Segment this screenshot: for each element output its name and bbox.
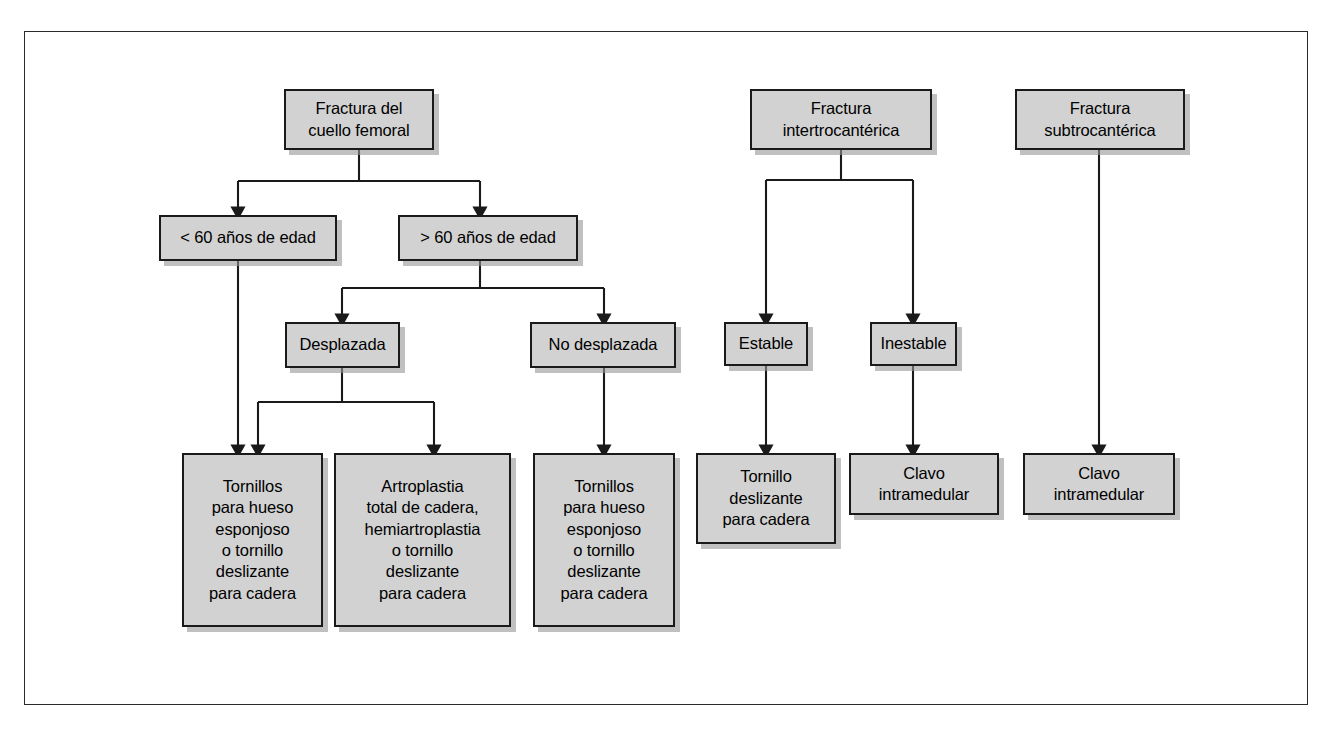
node-label: < 60 años de edad xyxy=(161,228,335,247)
node-age-under-60[interactable]: < 60 años de edad xyxy=(159,215,337,261)
node-treatment-arthroplasty[interactable]: Artroplastia total de cadera, hemiartrop… xyxy=(334,453,511,627)
node-label: > 60 años de edad xyxy=(400,228,576,247)
node-treatment-cancellous-screws-2[interactable]: Tornillos para hueso esponjoso o tornill… xyxy=(533,453,675,627)
node-label: Tornillo deslizante para cadera xyxy=(698,466,834,530)
node-label: Artroplastia total de cadera, hemiartrop… xyxy=(336,476,509,605)
node-label: Tornillos para hueso esponjoso o tornill… xyxy=(184,476,321,605)
node-treatment-sliding-hip-screw[interactable]: Tornillo deslizante para cadera xyxy=(696,453,836,544)
node-label: No desplazada xyxy=(532,335,674,354)
node-non-displaced[interactable]: No desplazada xyxy=(530,322,676,368)
node-displaced[interactable]: Desplazada xyxy=(285,322,400,368)
node-stable[interactable]: Estable xyxy=(724,322,808,366)
node-label: Fractura del cuello femoral xyxy=(286,98,432,140)
node-treatment-cancellous-screws-1[interactable]: Tornillos para hueso esponjoso o tornill… xyxy=(182,453,323,627)
node-subtrochanteric-fracture[interactable]: Fractura subtrocantérica xyxy=(1015,89,1185,150)
node-label: Fractura intertrocantérica xyxy=(752,98,930,140)
node-label: Tornillos para hueso esponjoso o tornill… xyxy=(535,476,673,605)
node-unstable[interactable]: Inestable xyxy=(870,322,957,366)
node-label: Desplazada xyxy=(287,335,398,354)
node-label: Inestable xyxy=(872,334,955,353)
figure-canvas: Fractura del cuello femoral < 60 años de… xyxy=(0,0,1334,731)
node-intertrochanteric-fracture[interactable]: Fractura intertrocantérica xyxy=(750,89,932,150)
node-label: Estable xyxy=(726,334,806,353)
node-label: Clavo intramedular xyxy=(1025,463,1173,506)
node-label: Fractura subtrocantérica xyxy=(1017,98,1183,140)
node-femoral-neck-fracture[interactable]: Fractura del cuello femoral xyxy=(284,89,434,150)
node-treatment-im-nail-1[interactable]: Clavo intramedular xyxy=(849,453,999,515)
node-label: Clavo intramedular xyxy=(851,463,997,506)
node-treatment-im-nail-2[interactable]: Clavo intramedular xyxy=(1023,453,1175,515)
node-age-over-60[interactable]: > 60 años de edad xyxy=(398,215,578,261)
